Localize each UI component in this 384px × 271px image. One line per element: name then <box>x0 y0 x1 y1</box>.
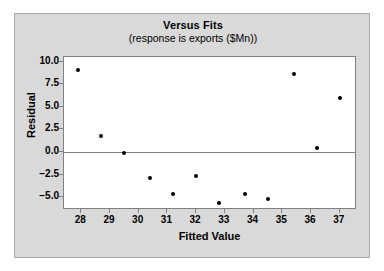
y-axis-tick-label: 10.0 <box>25 56 59 66</box>
y-axis-tick-label: 2.5 <box>25 123 59 133</box>
x-axis-tick-mark <box>138 209 139 213</box>
x-axis-title: Fitted Value <box>63 230 356 242</box>
y-axis-tick-label: 7.5 <box>25 78 59 88</box>
chart-title-block: Versus Fits (response is exports ($Mn)) <box>15 19 371 45</box>
x-axis-tick-label: 31 <box>151 214 181 226</box>
chart-figure: Versus Fits (response is exports ($Mn)) … <box>14 13 370 258</box>
y-axis-tick-label: 0.0 <box>25 146 59 156</box>
x-axis-tick-label: 32 <box>180 214 210 226</box>
x-axis-tick-label: 34 <box>238 214 268 226</box>
scatter-point <box>338 96 342 100</box>
y-axis-tick-labels: 10.07.55.02.50.0−2.5−5.0 <box>21 56 59 209</box>
scatter-point <box>99 134 103 138</box>
x-axis-tick-label: 33 <box>209 214 239 226</box>
x-axis-tick-label: 30 <box>123 214 153 226</box>
x-axis-tick-mark <box>310 209 311 213</box>
x-axis-tick-mark <box>339 209 340 213</box>
x-axis-tick-mark <box>80 209 81 213</box>
y-axis-tick-label: −5.0 <box>25 191 59 201</box>
x-axis-tick-label: 37 <box>324 214 354 226</box>
x-axis-tick-label: 36 <box>295 214 325 226</box>
x-axis-tick-marks <box>63 209 356 213</box>
y-axis-tick-label: −2.5 <box>25 169 59 179</box>
scatter-point <box>315 146 319 150</box>
scatter-point <box>266 197 270 201</box>
chart-subtitle: (response is exports ($Mn)) <box>15 32 371 45</box>
scatter-point <box>243 192 247 196</box>
x-axis-tick-mark <box>224 209 225 213</box>
scatter-point <box>292 72 296 76</box>
x-axis-tick-label: 35 <box>266 214 296 226</box>
chart-title: Versus Fits <box>15 19 371 32</box>
plot-area <box>63 56 356 209</box>
y-axis-tick-label: 5.0 <box>25 101 59 111</box>
x-axis-tick-label: 28 <box>65 214 95 226</box>
x-axis-tick-mark <box>281 209 282 213</box>
scatter-point <box>148 176 152 180</box>
scatter-point <box>122 151 126 155</box>
zero-reference-line <box>64 152 355 153</box>
x-axis-tick-labels: 28293031323334353637 <box>63 214 356 227</box>
x-axis-tick-mark <box>166 209 167 213</box>
scatter-point <box>171 192 175 196</box>
scatter-point <box>217 201 221 205</box>
scatter-point <box>76 68 80 72</box>
x-axis-tick-mark <box>253 209 254 213</box>
x-axis-tick-label: 29 <box>94 214 124 226</box>
x-axis-tick-mark <box>109 209 110 213</box>
x-axis-tick-mark <box>195 209 196 213</box>
scatter-point <box>194 174 198 178</box>
